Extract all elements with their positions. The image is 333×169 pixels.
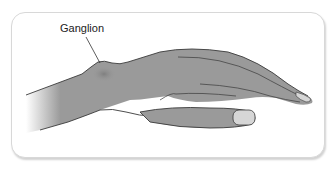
leader-line [86, 37, 100, 63]
ganglion-label: Ganglion [60, 22, 104, 34]
hand-illustration [0, 0, 333, 169]
ganglion-bump [92, 66, 116, 82]
thumb-nail [233, 110, 255, 125]
